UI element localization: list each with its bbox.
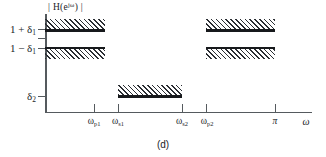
x-tick-omega-p2 [206,104,207,112]
filter-specification-figure: | H(ejω) | 1 + δ1 1 − δ1 δ2 ωp1 ωs1 ωs2 … [0,0,326,157]
band-boundary-line [206,29,275,32]
y-axis-title-post: ) | [75,2,83,12]
x-label-omega-p2-sub: p2 [207,120,213,127]
y-label-1-plus-delta1-sub: 1 [32,28,36,37]
y-tick-unity [38,38,46,39]
band-hatch-pattern [45,49,105,59]
band-hatch-pattern [118,85,182,95]
y-label-1-plus-delta1: 1 + δ1 [0,24,36,35]
band-boundary-line [45,29,105,32]
band-stopband-upper-bound [118,85,182,98]
band-boundary-line [118,95,182,98]
x-tick-omega-s1 [118,104,119,112]
x-label-omega-s1-sub: s1 [118,120,124,127]
band-upper-passband-upper-bound [206,19,275,32]
y-label-1-plus-delta1-text: 1 + δ [10,23,32,35]
y-axis-title-exponent: jω [68,1,75,8]
x-label-omega-p1-sub: p1 [94,120,100,127]
band-lower-passband-upper-bound [45,19,105,32]
band-hatch-pattern [45,19,105,29]
figure-caption: (d) [0,139,326,150]
band-hatch-pattern [206,49,275,59]
y-label-delta2-sub: 2 [32,95,36,104]
x-label-omega-s2: ωs2 [176,117,188,127]
x-label-omega-s2-sub: s2 [182,120,188,127]
band-hatch-pattern [206,19,275,29]
y-label-1-minus-delta1-text: 1 − δ [10,42,32,54]
y-label-1-minus-delta1-sub: 1 [32,47,36,56]
y-axis-title: | H(ejω) | [48,3,83,13]
x-label-omega-s1: ωs1 [112,117,124,127]
band-lower-passband-lower-bound [45,47,105,60]
x-label-pi: π [273,117,278,127]
x-tick-omega-s2 [182,104,183,112]
band-upper-passband-lower-bound [206,47,275,60]
y-label-delta2: δ2 [0,91,36,102]
y-axis-title-pre: | H(e [48,2,68,12]
x-axis-variable-label: ω [302,117,309,127]
x-label-omega-p1: ωp1 [88,117,101,127]
x-axis-line [45,112,312,114]
x-tick-omega-p1 [94,104,95,112]
x-tick-pi [275,104,276,112]
y-label-1-minus-delta1: 1 − δ1 [0,43,36,54]
x-label-omega-p2: ωp2 [201,117,214,127]
y-tick-delta2 [38,96,46,97]
